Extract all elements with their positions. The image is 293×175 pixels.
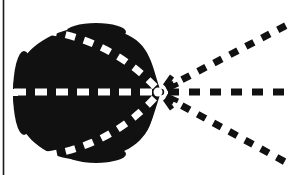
focal-point-highlight	[154, 88, 163, 97]
figure-container: Teardrop lobe with three dashed rays con…	[0, 0, 293, 175]
figure-canvas	[0, 0, 293, 175]
notch-left	[11, 89, 18, 96]
